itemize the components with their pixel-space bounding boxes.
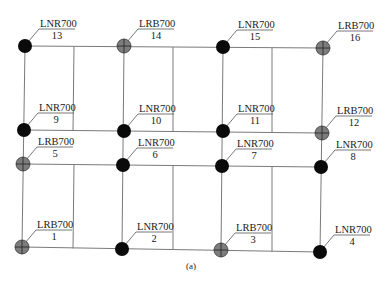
bearing-number: 5 bbox=[52, 148, 57, 159]
bearing-number: 3 bbox=[250, 234, 255, 245]
bearing-8: LNR7008 bbox=[314, 139, 373, 175]
leader-line bbox=[225, 149, 236, 162]
bearing-9: LNR7009 bbox=[17, 102, 76, 138]
bearing-number: 8 bbox=[350, 151, 355, 162]
bearing-number: 10 bbox=[151, 115, 162, 126]
lnr-bearing-icon bbox=[117, 124, 131, 138]
leader-line bbox=[226, 114, 237, 127]
bearing-number: 14 bbox=[151, 30, 162, 41]
lnr-bearing-icon bbox=[116, 158, 130, 172]
bearing-4: LNR7004 bbox=[313, 224, 372, 260]
bearing-1: LRB7001 bbox=[15, 219, 73, 255]
secondary-beam bbox=[73, 47, 74, 132]
leader-line bbox=[127, 29, 138, 42]
bearing-7: LNR7007 bbox=[215, 138, 274, 174]
bearing-type-label: LRB700 bbox=[236, 222, 272, 233]
secondary-beam bbox=[73, 165, 74, 249]
bearing-type-label: LRB700 bbox=[337, 105, 373, 116]
bearing-type-label: LNR700 bbox=[139, 103, 176, 114]
bearing-number: 7 bbox=[251, 150, 256, 161]
bearing-13: LNR70013 bbox=[18, 18, 77, 54]
lnr-bearing-icon bbox=[314, 160, 328, 174]
main-beam-vertical bbox=[320, 48, 323, 252]
leader-line bbox=[126, 148, 137, 161]
bearing-16: LRB70016 bbox=[316, 20, 374, 56]
main-beam-vertical bbox=[22, 46, 25, 247]
main-beam-horizontal bbox=[25, 46, 323, 48]
bearing-number: 6 bbox=[152, 149, 157, 160]
leader-line bbox=[224, 233, 235, 246]
bearing-number: 12 bbox=[349, 117, 360, 128]
bearing-number: 4 bbox=[349, 236, 355, 247]
bearing-number: 1 bbox=[51, 231, 56, 242]
bearing-type-label: LNR700 bbox=[237, 138, 274, 149]
bearing-number: 11 bbox=[250, 115, 260, 126]
bearing-10: LNR70010 bbox=[117, 103, 176, 139]
figure-caption: (a) bbox=[186, 261, 196, 271]
bearing-3: LRB7003 bbox=[214, 222, 272, 258]
leader-line bbox=[226, 30, 237, 43]
bearing-type-label: LRB700 bbox=[38, 136, 74, 147]
leader-line bbox=[125, 232, 136, 245]
bearing-2: LNR7002 bbox=[115, 221, 174, 257]
leader-line bbox=[326, 31, 337, 44]
bearing-number: 13 bbox=[52, 30, 63, 41]
bearing-number: 15 bbox=[250, 31, 261, 42]
bearing-type-label: LNR700 bbox=[238, 19, 275, 30]
lnr-bearing-icon bbox=[216, 124, 230, 138]
bearing-type-label: LNR700 bbox=[335, 224, 372, 235]
bearing-layout-diagram: LRB7001LNR7002LRB7003LNR7004LRB7005LNR70… bbox=[0, 0, 382, 291]
bearing-type-label: LRB700 bbox=[338, 20, 374, 31]
lnr-bearing-icon bbox=[115, 242, 129, 256]
bearing-15: LNR70015 bbox=[216, 19, 275, 55]
bearing-number: 9 bbox=[53, 114, 58, 125]
bearing-5: LRB7005 bbox=[16, 136, 74, 172]
bearing-type-label: LNR700 bbox=[336, 139, 373, 150]
leader-line bbox=[323, 235, 334, 248]
lnr-bearing-icon bbox=[313, 245, 327, 259]
bearing-type-label: LNR700 bbox=[39, 102, 76, 113]
bearing-12: LRB70012 bbox=[315, 105, 373, 141]
leader-line bbox=[27, 113, 38, 126]
leader-line bbox=[26, 147, 37, 160]
main-beam-vertical bbox=[221, 47, 223, 250]
bearing-type-label: LNR700 bbox=[138, 137, 175, 148]
bearing-type-label: LNR700 bbox=[238, 103, 275, 114]
lnr-bearing-icon bbox=[17, 123, 31, 137]
leader-line bbox=[325, 116, 336, 129]
lnr-bearing-icon bbox=[18, 39, 32, 53]
bearing-6: LNR7006 bbox=[116, 137, 175, 173]
leader-line bbox=[324, 150, 335, 163]
main-beam-horizontal bbox=[23, 164, 321, 167]
bearing-14: LRB70014 bbox=[117, 18, 175, 54]
bearing-type-label: LRB700 bbox=[37, 219, 73, 230]
lnr-bearing-icon bbox=[216, 40, 230, 54]
main-beam-horizontal bbox=[22, 247, 320, 252]
leader-line bbox=[28, 29, 39, 42]
bearing-type-label: LNR700 bbox=[137, 221, 174, 232]
bearing-type-label: LNR700 bbox=[40, 18, 77, 29]
bearing-number: 2 bbox=[151, 233, 156, 244]
main-beam-vertical bbox=[122, 46, 124, 249]
lnr-bearing-icon bbox=[215, 159, 229, 173]
bearing-number: 16 bbox=[350, 32, 361, 43]
leader-line bbox=[25, 230, 36, 243]
bearing-type-label: LRB700 bbox=[139, 18, 175, 29]
leader-line bbox=[127, 114, 138, 127]
